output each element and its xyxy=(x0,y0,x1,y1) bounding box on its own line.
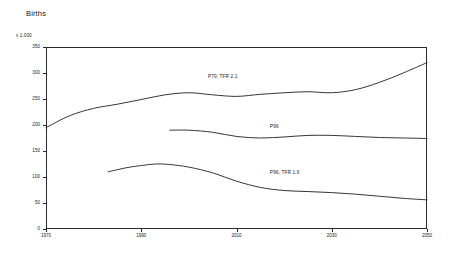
x-axis-tick-mark xyxy=(46,229,47,232)
y-axis-tick-label: 200 xyxy=(18,122,40,127)
x-axis-tick-label: 1970 xyxy=(26,233,66,238)
y-axis-tick-label: 0 xyxy=(18,226,40,231)
series-line xyxy=(170,130,427,138)
x-axis-tick-label: 2050 xyxy=(407,233,447,238)
chart-title: Births xyxy=(26,9,46,18)
series-label: P70, TFR 2.1 xyxy=(208,74,238,79)
series-label: P96, TFR 1.6 xyxy=(270,170,300,175)
x-axis-tick-mark xyxy=(141,229,142,232)
x-axis-tick-label: 2010 xyxy=(217,233,257,238)
x-axis-tick-label: 1990 xyxy=(121,233,161,238)
births-line-chart-figure: Births x 1,000 050100150200250300350 197… xyxy=(0,0,451,255)
y-axis-tick-label: 350 xyxy=(18,44,40,49)
series-label: P96 xyxy=(270,124,279,129)
y-axis-tick-label: 300 xyxy=(18,70,40,75)
x-axis-tick-mark xyxy=(332,229,333,232)
y-axis-tick-label: 100 xyxy=(18,174,40,179)
y-axis-tick-label: 250 xyxy=(18,96,40,101)
y-axis-tick-label: 50 xyxy=(18,200,40,205)
series-line xyxy=(108,163,427,199)
y-axis-unit-label: x 1,000 xyxy=(16,33,32,38)
series-line xyxy=(46,62,427,127)
x-axis-tick-mark xyxy=(237,229,238,232)
x-axis-tick-label: 2030 xyxy=(312,233,352,238)
y-axis-tick-label: 150 xyxy=(18,148,40,153)
x-axis-tick-mark xyxy=(427,229,428,232)
